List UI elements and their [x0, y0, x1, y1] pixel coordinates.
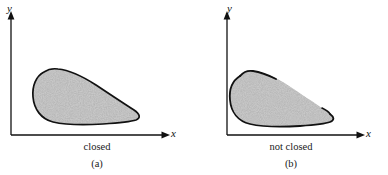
panel-index-b: (b) [194, 158, 388, 170]
x-axis-label-a: x [171, 128, 176, 139]
panel-index-a: (a) [0, 158, 194, 170]
y-axis-label-b: y [227, 3, 232, 14]
closed-region-shape [25, 60, 150, 135]
y-axis-a [8, 11, 15, 135]
not-closed-region-shape [222, 64, 347, 139]
x-axis-label-b: x [366, 128, 371, 139]
caption-a: closed [0, 141, 194, 153]
y-axis-b [224, 11, 231, 135]
figure-closed-not-closed: y x closed (a) [0, 0, 388, 175]
panel-b: y x not closed (b) [194, 0, 388, 175]
y-axis-label-a: y [7, 3, 12, 14]
panel-a: y x closed (a) [0, 0, 194, 175]
x-axis-a [11, 132, 170, 139]
caption-b: not closed [194, 141, 388, 153]
x-axis-b [227, 132, 365, 139]
